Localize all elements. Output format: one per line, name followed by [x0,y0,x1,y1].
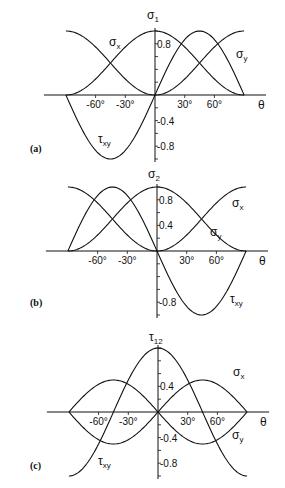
y-tick-label: -0.4 [160,433,178,444]
y-axis-title: σ1 [147,8,159,24]
chart-panel-c: -60°-30°30°60°0.4-0.4-0.8σxσyτxyτ12θ(c) [30,330,269,479]
x-tick-label: 60° [210,416,225,427]
series-label-y: σy [232,428,243,444]
y-tick-label: 0.4 [160,381,174,392]
panel-label: (b) [30,297,42,309]
series-label-xy: τxy [98,132,111,148]
x-tick-label: 30° [177,99,192,110]
x-tick-label: 60° [207,99,222,110]
x-axis-title: θ [258,98,265,112]
y-tick-label: 0.8 [159,195,173,206]
x-tick-label: -60° [88,255,106,266]
series-label-x: σx [109,35,120,51]
y-axis-title: τ12 [149,330,163,346]
chart-panel-b: -60°-30°30°60°0.80.4-0.8σxσyτxyσ2θ(b) [30,167,268,318]
x-tick-label: -60° [89,416,107,427]
series-label-y: σy [236,47,247,63]
series-label-xy: τxy [98,454,111,470]
y-axis-title: σ2 [148,167,160,183]
y-tick-label: 0.8 [157,39,171,50]
y-tick-label: -0.8 [157,141,175,152]
x-tick-label: 30° [179,255,194,266]
x-axis-title: θ [259,254,266,268]
series-label-y: σy [210,225,221,241]
y-tick-label: -0.4 [157,116,175,127]
series-label-x: σx [233,365,244,381]
panel-label: (c) [30,460,41,472]
y-tick-label: 0.4 [159,220,173,231]
y-tick-label: -0.8 [159,297,177,308]
x-tick-label: -30° [119,416,137,427]
x-tick-label: -60° [86,99,104,110]
x-tick-label: 60° [209,255,224,266]
series-label-xy: τxy [230,292,243,308]
x-tick-label: 30° [180,416,195,427]
stress-transformation-figure: -60°-30°30°60°0.8-0.4-0.8σxσyτxyσ1θ(a) -… [0,0,285,488]
chart-panel-a: -60°-30°30°60°0.8-0.4-0.8σxσyτxyσ1θ(a) [30,8,266,162]
x-tick-label: -30° [116,99,134,110]
y-tick-label: -0.8 [160,458,178,469]
series-label-x: σx [232,196,243,212]
x-axis-title: θ [260,415,267,429]
panel-label: (a) [30,143,42,155]
x-tick-label: -30° [118,255,136,266]
